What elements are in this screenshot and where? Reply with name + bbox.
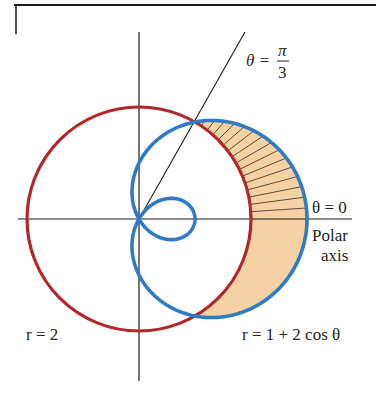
label-3-denominator: 3	[278, 63, 287, 82]
label-axis: axis	[321, 246, 348, 265]
label-polar: Polar	[312, 226, 348, 245]
label-theta-zero: θ = 0	[312, 198, 347, 217]
polar-diagram: θ = π 3 θ = 0 Polar axis r = 2 r = 1 + 2…	[0, 0, 376, 395]
label-pi-numerator: π	[278, 41, 287, 60]
label-limacon-equation: r = 1 + 2 cos θ	[242, 325, 340, 344]
label-circle-equation: r = 2	[26, 325, 58, 344]
label-theta-pi-over-3: θ =	[246, 51, 270, 70]
